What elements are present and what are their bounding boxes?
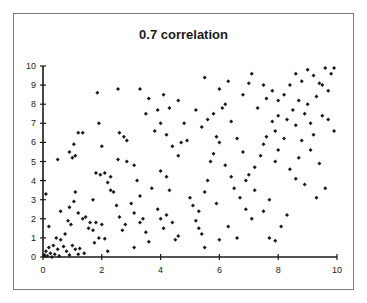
data-point bbox=[116, 87, 120, 91]
x-tick-label: 10 bbox=[332, 265, 342, 275]
data-point bbox=[300, 79, 304, 83]
data-point bbox=[244, 207, 248, 211]
data-point bbox=[226, 79, 230, 83]
data-point bbox=[120, 228, 124, 232]
data-point bbox=[106, 249, 110, 253]
data-point bbox=[69, 223, 73, 227]
data-point bbox=[47, 224, 51, 228]
data-point bbox=[200, 232, 204, 236]
data-point bbox=[100, 144, 104, 148]
data-point bbox=[264, 135, 268, 139]
data-point bbox=[147, 96, 151, 100]
data-point bbox=[167, 188, 171, 192]
data-point bbox=[285, 213, 289, 217]
data-point bbox=[273, 160, 277, 164]
data-point bbox=[70, 156, 74, 160]
data-point bbox=[297, 98, 301, 102]
data-point bbox=[116, 158, 120, 162]
data-point bbox=[123, 223, 127, 227]
data-point bbox=[273, 239, 277, 243]
data-point bbox=[100, 223, 104, 227]
data-point bbox=[162, 93, 166, 97]
data-point bbox=[150, 186, 154, 190]
data-point bbox=[314, 196, 318, 200]
data-point bbox=[153, 129, 157, 133]
data-point bbox=[241, 93, 245, 97]
data-point bbox=[44, 192, 48, 196]
data-point bbox=[135, 179, 139, 183]
data-point bbox=[262, 209, 266, 213]
data-point bbox=[285, 117, 289, 121]
data-point bbox=[47, 245, 51, 249]
data-point bbox=[54, 236, 58, 240]
y-tick-label: 2 bbox=[31, 214, 36, 224]
data-point bbox=[164, 213, 168, 217]
data-point bbox=[159, 217, 163, 221]
y-tick-label: 3 bbox=[31, 195, 36, 205]
data-point bbox=[67, 205, 71, 209]
data-point bbox=[197, 209, 201, 213]
x-tick-label: 6 bbox=[217, 265, 222, 275]
data-point bbox=[235, 137, 239, 141]
data-point bbox=[262, 142, 266, 146]
data-point bbox=[106, 181, 110, 185]
data-point bbox=[50, 255, 54, 259]
data-point bbox=[250, 72, 254, 76]
data-point bbox=[288, 83, 292, 87]
data-point bbox=[159, 121, 163, 125]
data-point bbox=[256, 106, 260, 110]
data-point bbox=[250, 217, 254, 221]
data-point bbox=[200, 125, 204, 129]
data-point bbox=[323, 186, 327, 190]
data-point bbox=[226, 224, 230, 228]
data-point bbox=[288, 167, 292, 171]
data-point bbox=[253, 188, 257, 192]
data-point bbox=[253, 165, 257, 169]
data-point bbox=[247, 173, 251, 177]
data-point bbox=[73, 190, 77, 194]
y-tick-label: 9 bbox=[31, 80, 36, 90]
data-point bbox=[262, 83, 266, 87]
x-tick-label: 4 bbox=[158, 265, 163, 275]
data-point bbox=[176, 98, 180, 102]
data-point bbox=[87, 226, 91, 230]
data-point bbox=[132, 211, 136, 215]
data-point bbox=[273, 129, 277, 133]
data-point bbox=[235, 236, 239, 240]
data-point bbox=[98, 173, 102, 177]
data-point bbox=[276, 98, 280, 102]
data-point bbox=[276, 114, 280, 118]
y-tick-label: 1 bbox=[31, 233, 36, 243]
data-point bbox=[81, 217, 85, 221]
data-point bbox=[309, 148, 313, 152]
data-point bbox=[147, 240, 151, 244]
data-point bbox=[232, 186, 236, 190]
data-point bbox=[267, 198, 271, 202]
data-point bbox=[206, 179, 210, 183]
data-point bbox=[332, 66, 336, 70]
data-point bbox=[173, 238, 177, 242]
data-point bbox=[115, 203, 119, 207]
data-point bbox=[138, 87, 142, 91]
data-point bbox=[179, 140, 183, 144]
data-point bbox=[176, 234, 180, 238]
data-point bbox=[144, 112, 148, 116]
data-point bbox=[194, 108, 198, 112]
data-point bbox=[167, 106, 171, 110]
y-tick-label: 5 bbox=[31, 157, 36, 167]
data-point bbox=[259, 154, 263, 158]
data-point bbox=[92, 241, 96, 245]
y-tick-label: 10 bbox=[26, 61, 36, 71]
data-point bbox=[70, 244, 74, 248]
data-point bbox=[73, 154, 77, 158]
data-point bbox=[203, 190, 207, 194]
data-point bbox=[311, 74, 315, 78]
data-point bbox=[306, 68, 310, 72]
data-point bbox=[97, 236, 101, 240]
data-point bbox=[95, 91, 99, 95]
data-point bbox=[294, 72, 298, 76]
data-point bbox=[66, 219, 70, 223]
data-point bbox=[217, 140, 221, 144]
data-point bbox=[223, 102, 227, 106]
data-point bbox=[244, 179, 248, 183]
